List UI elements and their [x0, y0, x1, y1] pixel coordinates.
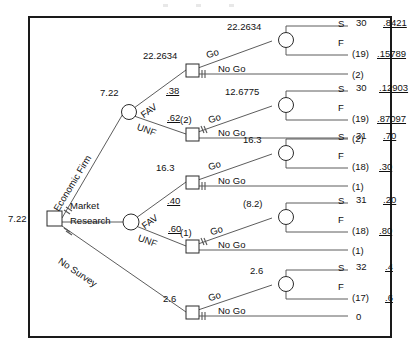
payoff-s-4: 31: [356, 195, 367, 205]
decision-node-no-survey: [186, 306, 199, 319]
go-value-unf-upper: 12.6775: [225, 87, 259, 97]
no-go-label-unf-upper: No Go: [218, 128, 245, 138]
chance-node-unf-lower: [279, 210, 294, 225]
payoff-f-2: (19): [352, 114, 369, 124]
prob-f-1: .15789: [377, 49, 406, 59]
outcome-label-s-4: S: [338, 196, 344, 206]
go-value-unf-lower: (8.2): [243, 199, 263, 209]
prob-s-5: .4: [385, 262, 393, 272]
chance-node-fav-upper: [279, 33, 294, 48]
payoff-s-1: 30: [356, 18, 367, 28]
payoff-f-3: (18): [352, 162, 369, 172]
prob-unf-upper: .62: [167, 113, 180, 123]
no-go-label-fav-lower: No Go: [218, 176, 245, 186]
chance-node-unf-upper: [279, 98, 294, 113]
payoff-f-5: (17): [352, 293, 369, 303]
go-value-no-survey: 2.6: [250, 266, 263, 276]
decision-node-unf-upper: [186, 128, 199, 141]
no-go-value-5: 0: [356, 312, 361, 322]
payoff-s-2: 30: [356, 83, 367, 93]
chance-node-fav-lower: [279, 146, 294, 161]
decision-value-unf-lower: (1): [180, 228, 192, 238]
chance-node-no-survey: [279, 277, 294, 292]
prob-fav-upper: .38: [166, 86, 179, 96]
prob-f-4: .80: [379, 226, 392, 236]
prob-f-5: .6: [385, 293, 393, 303]
chance-node-middle: [123, 214, 139, 230]
outcome-label-f-1: F: [338, 38, 344, 48]
no-go-value-3: (1): [352, 182, 364, 192]
no-go-label-fav-upper: No Go: [218, 64, 245, 74]
no-go-label-no-survey: No Go: [218, 306, 245, 316]
prob-s-3: .70: [383, 131, 396, 141]
outcome-label-f-4: F: [338, 215, 344, 225]
prob-f-2: .87097: [377, 114, 406, 124]
prob-f-3: .30: [379, 162, 392, 172]
outcome-label-f-5: F: [338, 282, 344, 292]
payoff-f-4: (18): [352, 226, 369, 236]
decision-tree-diagram: 7.22 Economic Firm Market Research No Su…: [0, 0, 413, 353]
decision-node-fav-lower: [186, 176, 199, 189]
prob-fav-lower: .40: [167, 196, 180, 206]
no-go-label-unf-lower: No Go: [218, 240, 245, 250]
outcome-label-f-3: F: [338, 151, 344, 161]
prob-s-2: .12903: [379, 83, 408, 93]
outcome-label-f-2: F: [338, 103, 344, 113]
prob-s-4: .20: [383, 195, 396, 205]
outcome-label-s-5: S: [338, 263, 344, 273]
outcome-label-s-3: S: [338, 132, 344, 142]
prob-s-1: .8421: [383, 18, 407, 28]
decision-value-unf-upper: (2): [180, 115, 192, 125]
decision-node-fav-upper: [186, 64, 199, 77]
branch-label-market: Market: [70, 201, 99, 211]
payoff-s-5: 32: [356, 262, 367, 272]
chance-node-upper: [122, 105, 137, 120]
chance-value-upper: 7.22: [100, 88, 119, 98]
decision-node-unf-lower: [186, 240, 199, 253]
decision-value-fav-upper: 22.2634: [143, 51, 177, 61]
no-go-value-1: (2): [352, 70, 364, 80]
branch-label-research: Research: [70, 216, 111, 226]
outcome-label-s-1: S: [338, 19, 344, 29]
go-value-fav-lower: 16.3: [243, 135, 262, 145]
root-value: 7.22: [8, 214, 27, 224]
outcome-label-s-2: S: [338, 84, 344, 94]
decision-value-no-survey: 2.6: [163, 294, 176, 304]
payoff-f-1: (19): [352, 49, 369, 59]
go-value-fav-upper: 22.2634: [227, 22, 261, 32]
no-go-value-4: (1): [352, 246, 364, 256]
payoff-s-3: 31: [356, 131, 367, 141]
decision-value-fav-lower: 16.3: [156, 163, 175, 173]
